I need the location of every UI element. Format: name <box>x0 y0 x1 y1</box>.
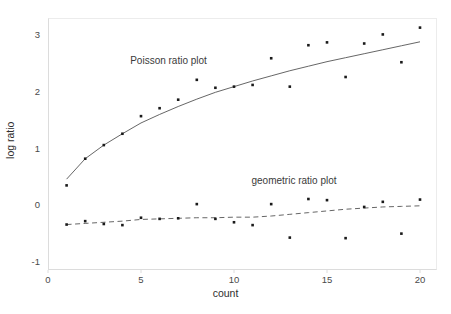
data-point <box>196 203 199 206</box>
x-axis-tick-label: 20 <box>408 275 432 285</box>
data-point <box>140 216 143 219</box>
data-point <box>289 85 292 88</box>
data-point <box>233 221 236 224</box>
data-point <box>177 98 180 101</box>
data-point <box>251 224 254 227</box>
x-axis-tick-label: 10 <box>222 275 246 285</box>
poisson-fit-line <box>67 42 420 179</box>
data-point <box>307 198 310 201</box>
y-axis-tick-label: 2 <box>18 87 40 97</box>
data-point <box>65 223 68 226</box>
data-point <box>344 237 347 240</box>
annotation-geometric-ratio-plot: geometric ratio plot <box>252 176 337 186</box>
data-point <box>121 224 124 227</box>
poisson-data-points <box>65 26 421 186</box>
y-axis-tick-label: 0 <box>18 200 40 210</box>
data-point <box>84 220 87 223</box>
data-point <box>121 132 124 135</box>
x-axis-tick-label: 0 <box>36 275 60 285</box>
data-point <box>270 203 273 206</box>
data-point <box>158 218 161 221</box>
data-point <box>400 232 403 235</box>
chart-root: -10123 05101520 count log ratio Poisson … <box>0 0 451 314</box>
data-point <box>289 236 292 239</box>
data-point <box>214 218 217 221</box>
data-point <box>233 85 236 88</box>
data-point <box>419 198 422 201</box>
chart-canvas <box>0 0 451 314</box>
data-point <box>196 79 199 82</box>
geometric-data-points <box>65 198 421 240</box>
annotation-poisson-ratio-plot: Poisson ratio plot <box>130 56 207 66</box>
y-axis-tick-label: 1 <box>18 144 40 154</box>
x-axis-tick-label: 15 <box>315 275 339 285</box>
data-point <box>400 61 403 64</box>
poisson-fit-line-group <box>67 42 420 179</box>
geometric-fit-line <box>67 206 420 225</box>
data-point <box>307 44 310 47</box>
x-axis-tick-label: 5 <box>129 275 153 285</box>
data-point <box>140 115 143 118</box>
data-point <box>344 76 347 79</box>
data-point <box>103 223 106 226</box>
x-axis-title: count <box>0 288 451 299</box>
y-axis-tick-label: 3 <box>18 30 40 40</box>
data-point <box>363 206 366 209</box>
geometric-fit-line-group <box>67 206 420 225</box>
data-point <box>214 86 217 89</box>
data-point <box>177 217 180 220</box>
data-point <box>270 57 273 60</box>
data-point <box>382 33 385 36</box>
data-point <box>419 26 422 29</box>
y-axis-title: log ratio <box>5 110 16 170</box>
data-point <box>363 42 366 45</box>
data-point <box>103 144 106 147</box>
data-point <box>158 107 161 110</box>
data-point <box>382 201 385 204</box>
data-point <box>326 199 329 202</box>
x-axis-tick-marks <box>48 270 420 273</box>
data-point <box>84 157 87 160</box>
data-point <box>326 41 329 44</box>
y-axis-tick-label: -1 <box>18 257 40 267</box>
data-point <box>65 184 68 187</box>
data-point <box>251 84 254 87</box>
